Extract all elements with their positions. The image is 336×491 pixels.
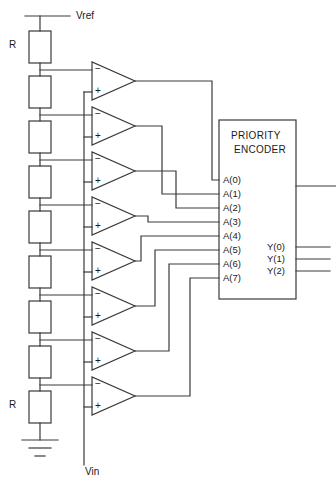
comparator-2-plus: + (95, 131, 101, 141)
flash-adc-schematic (0, 0, 336, 491)
comparator-3-plus: + (95, 176, 101, 186)
encoder-title-line2: ENCODER (234, 145, 286, 155)
resistor-5 (29, 211, 51, 243)
encoder-input-a0: A(0) (223, 175, 241, 185)
encoder-input-a5: A(5) (223, 245, 241, 255)
comparator-6-plus: + (95, 311, 101, 321)
resistor-label-bottom: R (9, 400, 16, 410)
encoder-output-label-y2: Y(2) (267, 266, 285, 276)
output-wire-a1 (135, 126, 219, 194)
comparator-7-minus: − (95, 334, 101, 344)
resistor-2 (29, 76, 51, 108)
resistor-6 (29, 256, 51, 288)
encoder-output-label-y1: Y(1) (267, 254, 285, 264)
comparator-1-plus: + (95, 86, 101, 96)
comparator-2-minus: − (95, 109, 101, 119)
comparator-6-minus: − (95, 289, 101, 299)
output-wire-a0 (135, 81, 219, 180)
vin-label: Vin (85, 467, 99, 477)
encoder-input-a1: A(1) (223, 189, 241, 199)
encoder-input-a6: A(6) (223, 259, 241, 269)
output-wire-a2 (135, 171, 219, 208)
comparator-5-minus: − (95, 244, 101, 254)
resistor-4 (29, 166, 51, 198)
encoder-input-a2: A(2) (223, 203, 241, 213)
comparator-4-minus: − (95, 199, 101, 209)
encoder-input-a3: A(3) (223, 217, 241, 227)
comparator-7-plus: + (95, 356, 101, 366)
resistor-3 (29, 121, 51, 153)
encoder-input-a4: A(4) (223, 231, 241, 241)
comparator-4-plus: + (95, 221, 101, 231)
encoder-input-a7: A(7) (223, 273, 241, 283)
output-wire-a3 (135, 216, 219, 222)
output-wire-a7 (135, 278, 219, 396)
resistor-label-top: R (9, 40, 16, 50)
encoder-title-line1: PRIORITY (231, 131, 281, 141)
resistor-8 (29, 346, 51, 378)
resistor-1 (29, 31, 51, 63)
encoder-output-label-y0: Y(0) (267, 242, 285, 252)
resistor-9 (29, 391, 51, 423)
comparator-8-plus: + (95, 401, 101, 411)
output-wire-a6 (135, 264, 219, 351)
output-wire-a4 (135, 236, 219, 261)
comparator-8-minus: − (95, 379, 101, 389)
comparator-3-minus: − (95, 154, 101, 164)
comparator-5-plus: + (95, 266, 101, 276)
schematic-canvas: Vref Vin R R − + − + − + − + − + − + − +… (0, 0, 336, 491)
vref-label: Vref (76, 11, 94, 21)
resistor-7 (29, 301, 51, 333)
comparator-1-minus: − (95, 64, 101, 74)
